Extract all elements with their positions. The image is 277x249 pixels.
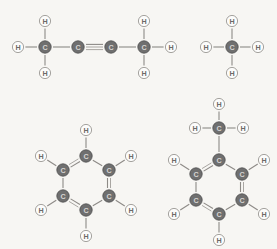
- bond-line: [116, 160, 125, 166]
- bond-line: [180, 204, 189, 210]
- hydrogen-label: H: [128, 152, 133, 161]
- bond-order-1: [180, 164, 189, 170]
- hydrogen-label: H: [38, 152, 43, 161]
- carbon-atom: C: [80, 150, 92, 162]
- hydrogen-label: H: [229, 69, 234, 78]
- bond-line: [116, 200, 125, 206]
- carbon-atom: C: [39, 41, 51, 53]
- carbon-label: C: [108, 43, 113, 52]
- hydrogen-label: H: [15, 43, 20, 52]
- carbon-atom: C: [236, 194, 248, 206]
- hydrogen-label: H: [261, 156, 266, 165]
- molecule-benzene: CCCCCCHHHHHH: [35, 124, 136, 241]
- hydrogen-atom: H: [80, 230, 91, 241]
- hydrogen-label: H: [216, 100, 221, 109]
- hydrogen-label: H: [171, 210, 176, 219]
- hydrogen-atom: H: [39, 67, 50, 78]
- hydrogen-atom: H: [168, 154, 179, 165]
- hydrogen-label: H: [255, 43, 260, 52]
- hydrogen-label: H: [83, 232, 88, 241]
- bond-line: [47, 200, 56, 206]
- molecular-structures-figure: CCCCHHHHHHCHHHHCCCCCCHHHHHHCCCCCCCHHHHHH…: [0, 0, 277, 249]
- molecule-methane: CHHHH: [200, 15, 263, 78]
- carbon-label: C: [83, 206, 88, 215]
- hydrogen-label: H: [216, 236, 221, 245]
- carbon-atom: C: [103, 164, 115, 176]
- carbon-label: C: [216, 156, 221, 165]
- carbon-label: C: [216, 210, 221, 219]
- carbon-label: C: [60, 166, 65, 175]
- bond-order-2: [202, 163, 213, 171]
- hydrogen-atom: H: [213, 234, 224, 245]
- hydrogen-atom: H: [189, 122, 200, 133]
- hydrogen-atom: H: [138, 67, 149, 78]
- hydrogen-atom: H: [168, 208, 179, 219]
- molecule-butyne: CCCCHHHHHH: [12, 15, 176, 78]
- bond-line: [249, 204, 258, 210]
- carbon-label: C: [42, 43, 47, 52]
- carbon-label: C: [75, 43, 80, 52]
- hydrogen-label: H: [168, 43, 173, 52]
- carbon-atom: C: [190, 194, 202, 206]
- hydrogen-atom: H: [80, 124, 91, 135]
- bond-line: [226, 164, 235, 170]
- bond-order-1: [116, 160, 125, 166]
- hydrogen-atom: H: [138, 15, 149, 26]
- carbon-label: C: [239, 170, 244, 179]
- carbon-atom: C: [72, 41, 84, 53]
- hydrogen-label: H: [42, 69, 47, 78]
- bond-order-2: [241, 182, 244, 192]
- hydrogen-atom: H: [35, 204, 46, 215]
- hydrogen-atom: H: [125, 204, 136, 215]
- carbon-atom: C: [213, 122, 225, 134]
- carbon-atom: C: [57, 164, 69, 176]
- bond-order-2: [202, 203, 213, 211]
- bond-order-3: [86, 44, 103, 49]
- carbon-label: C: [106, 166, 111, 175]
- structure-diagram-svg: CCCCHHHHHHCHHHHCCCCCCHHHHHHCCCCCCCHHHHHH…: [0, 0, 277, 249]
- bond-order-2: [108, 178, 111, 188]
- hydrogen-label: H: [42, 17, 47, 26]
- carbon-atom: C: [190, 168, 202, 180]
- carbon-label: C: [60, 192, 65, 201]
- carbon-atom: C: [226, 41, 238, 53]
- bond-order-1: [93, 160, 102, 166]
- bond-order-1: [47, 200, 56, 206]
- carbon-atom: C: [103, 190, 115, 202]
- bond-order-1: [47, 160, 56, 166]
- bond-order-2: [69, 199, 80, 207]
- hydrogen-atom: H: [252, 41, 263, 52]
- hydrogen-label: H: [203, 43, 208, 52]
- hydrogen-label: H: [38, 206, 43, 215]
- bond-line: [180, 164, 189, 170]
- carbon-atom: C: [105, 41, 117, 53]
- carbon-label: C: [239, 196, 244, 205]
- atom-layer: CHHHH: [200, 15, 263, 78]
- carbon-atom: C: [138, 41, 150, 53]
- hydrogen-label: H: [141, 17, 146, 26]
- bond-line: [93, 200, 102, 206]
- carbon-atom: C: [213, 154, 225, 166]
- hydrogen-atom: H: [258, 208, 269, 219]
- hydrogen-atom: H: [125, 150, 136, 161]
- carbon-label: C: [141, 43, 146, 52]
- carbon-label: C: [229, 43, 234, 52]
- hydrogen-label: H: [141, 69, 146, 78]
- hydrogen-atom: H: [39, 15, 50, 26]
- carbon-label: C: [193, 196, 198, 205]
- hydrogen-atom: H: [165, 41, 176, 52]
- bond-order-2: [69, 159, 80, 167]
- bond-line: [249, 164, 258, 170]
- hydrogen-label: H: [128, 206, 133, 215]
- hydrogen-label: H: [171, 156, 176, 165]
- bond-order-1: [249, 164, 258, 170]
- hydrogen-label: H: [192, 124, 197, 133]
- carbon-label: C: [216, 124, 221, 133]
- bond-order-1: [226, 164, 235, 170]
- carbon-label: C: [83, 152, 88, 161]
- hydrogen-label: H: [261, 210, 266, 219]
- carbon-label: C: [106, 192, 111, 201]
- carbon-atom: C: [57, 190, 69, 202]
- hydrogen-label: H: [240, 124, 245, 133]
- hydrogen-label: H: [83, 126, 88, 135]
